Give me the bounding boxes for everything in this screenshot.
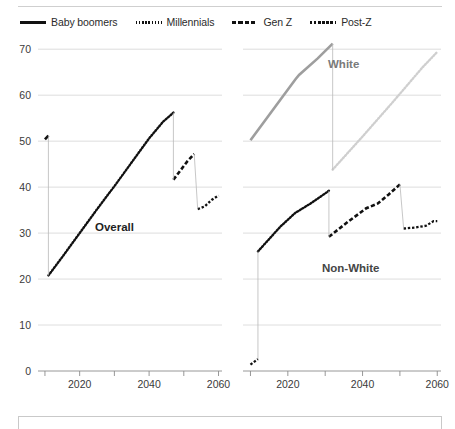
line-dashed-icon — [232, 17, 258, 27]
chart-page: Baby boomersMillennialsGen ZPost-Z 01020… — [0, 0, 455, 429]
y-tick-label-10: 10 — [19, 319, 31, 331]
series-overall-baby-boomers — [45, 136, 48, 140]
x-tick-label-2040-panel0: 2040 — [137, 378, 161, 390]
top-divider — [18, 6, 442, 7]
x-tick-label-2020-panel1: 2020 — [276, 378, 300, 390]
series-nonwhite-millennials — [258, 191, 329, 252]
series-white-baby-boomers — [250, 44, 332, 141]
legend-label: Millennials — [167, 16, 215, 28]
line-dotted-icon — [136, 17, 162, 27]
series-nonwhite-post-z — [404, 221, 438, 228]
y-tick-label-60: 60 — [19, 89, 31, 101]
legend-item-gen-z[interactable]: Gen Z — [232, 16, 292, 28]
legend-item-post-z[interactable]: Post-Z — [310, 16, 371, 28]
connector-overall-2 — [194, 154, 197, 209]
connector-nonwhite-2 — [400, 184, 404, 228]
series-nonwhite-gen-z — [329, 184, 400, 236]
chart-legend: Baby boomersMillennialsGen ZPost-Z — [20, 14, 440, 30]
x-tick-label-2060-panel1: 2060 — [426, 378, 450, 390]
series-overall-post-z — [198, 195, 219, 209]
x-tick-label-2020-panel0: 2020 — [68, 378, 92, 390]
line-solid-icon — [20, 17, 46, 27]
panel-label-non-white: Non-White — [322, 262, 379, 274]
panel-label-overall: Overall — [95, 221, 134, 233]
x-tick-label-2040-panel1: 2040 — [351, 378, 375, 390]
series-overall-gen-z — [173, 154, 194, 180]
chart-svg: 010203040506070202020402060202020402060O… — [0, 32, 455, 404]
line-dashdot-icon — [310, 17, 336, 27]
x-tick-label-2060-panel0: 2060 — [207, 378, 231, 390]
y-tick-label-40: 40 — [19, 181, 31, 193]
panel-label-white: White — [328, 58, 359, 70]
legend-item-millennials[interactable]: Millennials — [136, 16, 215, 28]
series-nonwhite-baby-boomers — [250, 359, 257, 365]
legend-label: Baby boomers — [51, 16, 118, 28]
legend-label: Post-Z — [341, 16, 371, 28]
chart-plot-area: 010203040506070202020402060202020402060O… — [0, 32, 455, 404]
legend-item-baby-boomers[interactable]: Baby boomers — [20, 16, 118, 28]
bottom-border-box — [18, 416, 442, 429]
series-overall-millennials — [48, 113, 173, 276]
y-tick-label-0: 0 — [25, 365, 31, 377]
y-tick-label-20: 20 — [19, 273, 31, 285]
y-tick-label-30: 30 — [19, 227, 31, 239]
y-tick-label-70: 70 — [19, 43, 31, 55]
y-tick-label-50: 50 — [19, 135, 31, 147]
legend-label: Gen Z — [263, 16, 292, 28]
